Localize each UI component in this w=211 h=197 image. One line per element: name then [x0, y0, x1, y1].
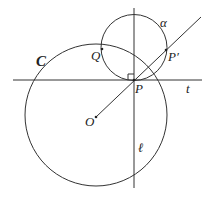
circle-c — [25, 44, 167, 186]
label-c: C — [36, 53, 47, 69]
label-alpha: α — [160, 15, 168, 30]
label-l: ℓ — [138, 140, 144, 155]
point-p-prime-dot — [165, 49, 168, 52]
label-p-prime: P′ — [167, 49, 179, 64]
label-t: t — [186, 81, 190, 96]
label-p: P — [134, 81, 143, 96]
point-o-dot — [95, 116, 98, 119]
point-q-dot — [101, 48, 104, 51]
label-q: Q — [91, 48, 101, 63]
geometry-diagram: C α Q P P′ O t ℓ — [0, 0, 211, 197]
label-o: O — [85, 114, 95, 129]
ray-o-through-p — [96, 17, 201, 117]
